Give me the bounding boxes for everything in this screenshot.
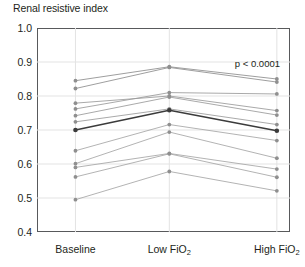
- data-point: [167, 130, 171, 134]
- data-point: [74, 166, 78, 170]
- series-line: [75, 125, 276, 151]
- data-point: [275, 123, 279, 127]
- series-subject-11: [74, 152, 279, 179]
- y-tick-label: 0.7: [17, 124, 32, 136]
- y-tick-label: 0.9: [17, 56, 32, 68]
- data-point: [167, 123, 171, 127]
- data-point: [74, 101, 78, 105]
- renal-resistive-index-figure: Renal resistive index 1.00.90.80.70.60.5…: [0, 0, 305, 267]
- data-point: [74, 149, 78, 153]
- data-point: [275, 139, 279, 143]
- data-point: [275, 113, 279, 117]
- x-axis: BaselineLow FiO2High FiO2: [37, 243, 290, 263]
- data-point: [275, 175, 279, 179]
- y-axis: 1.00.90.80.70.60.50.4: [0, 28, 32, 232]
- series-subject-12: [74, 170, 279, 202]
- data-point: [74, 79, 78, 83]
- series-subject-9: [74, 130, 279, 165]
- data-point: [275, 80, 279, 84]
- pvalue-annotation: p < 0.0001: [235, 58, 280, 69]
- data-point: [167, 152, 171, 156]
- y-tick-label: 1.0: [17, 22, 32, 34]
- data-point: [74, 114, 78, 118]
- y-tick-label: 0.8: [17, 90, 32, 102]
- data-point: [74, 162, 78, 166]
- series-line: [75, 153, 276, 169]
- y-tick-label: 0.6: [17, 158, 32, 170]
- data-point: [74, 175, 78, 179]
- data-point: [74, 120, 78, 124]
- series-subject-8: [74, 123, 279, 153]
- data-point: [167, 66, 171, 70]
- series-subject-10: [74, 152, 279, 171]
- data-point: [167, 95, 171, 99]
- data-point: [275, 92, 279, 96]
- data-point: [74, 107, 78, 111]
- x-tick-label: Low FiO2: [148, 243, 191, 255]
- data-point: [275, 156, 279, 160]
- series-subject-2: [74, 66, 279, 91]
- series-line: [75, 67, 276, 88]
- data-point: [275, 128, 280, 133]
- data-point: [167, 91, 171, 95]
- plot-area: p < 0.0001: [37, 28, 290, 232]
- x-tick-label: High FiO2: [254, 243, 300, 255]
- data-point: [73, 128, 78, 133]
- data-point: [275, 189, 279, 193]
- series-line: [75, 154, 276, 177]
- x-tick-label: Baseline: [55, 243, 95, 255]
- data-point: [275, 109, 279, 113]
- data-point: [74, 87, 78, 91]
- y-tick-label: 0.5: [17, 192, 32, 204]
- chart-title: Renal resistive index: [13, 2, 108, 14]
- y-tick-label: 0.4: [17, 226, 32, 238]
- series-line: [75, 132, 276, 164]
- data-point: [167, 170, 171, 174]
- data-point: [167, 108, 172, 113]
- data-point: [74, 198, 78, 202]
- data-point: [275, 167, 279, 171]
- series-line: [75, 171, 276, 199]
